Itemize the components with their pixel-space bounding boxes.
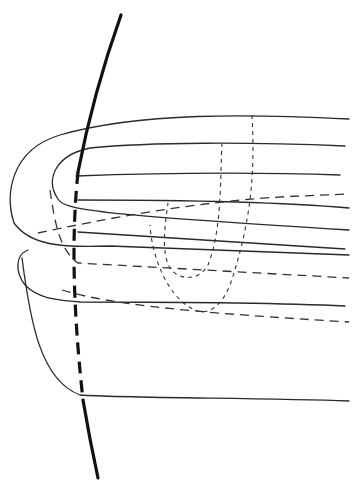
band-outline-5: [78, 200, 349, 208]
hidden-line-2: [50, 190, 349, 278]
band-outline-7: [22, 258, 349, 401]
hidden-line-3: [62, 290, 349, 322]
solid-band-lines: [10, 116, 349, 401]
band-outline-1: [10, 116, 349, 255]
diagram-canvas: [0, 0, 356, 497]
axis-lower-segment: [83, 400, 98, 478]
axis-hidden-segment: [74, 172, 83, 400]
band-outline-6: [18, 250, 345, 306]
dotted-loop-inner: [164, 143, 222, 277]
band-outline-2: [53, 143, 349, 230]
band-outline-3: [76, 173, 340, 176]
dotted-loop-outer: [150, 115, 253, 312]
diagram-svg: [0, 0, 356, 497]
dotted-loops: [150, 115, 253, 312]
axis-upper-segment: [78, 15, 121, 172]
